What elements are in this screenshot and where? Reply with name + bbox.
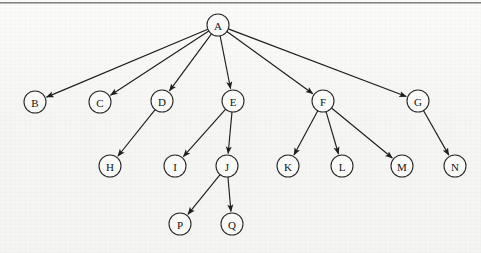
node-label-i: I	[173, 161, 177, 173]
node-label-c: C	[96, 97, 103, 109]
node-label-f: F	[320, 96, 326, 108]
tree-node-k[interactable]: K	[277, 155, 299, 177]
node-label-a: A	[214, 20, 222, 32]
tree-edge-d-h	[118, 110, 155, 157]
tree-node-j[interactable]: J	[216, 155, 238, 177]
node-label-n: N	[451, 161, 459, 173]
tree-edge-a-f	[227, 31, 313, 93]
tree-edge-f-k	[294, 111, 318, 155]
node-label-j: J	[225, 161, 230, 173]
node-label-g: G	[414, 96, 422, 108]
tree-node-e[interactable]: E	[222, 90, 244, 112]
node-label-h: H	[106, 161, 114, 173]
tree-node-b[interactable]: B	[24, 91, 46, 113]
diagram-page: ABCDEFGHIJKLMNPQ	[0, 0, 481, 253]
tree-node-h[interactable]: H	[99, 155, 121, 177]
node-label-m: M	[397, 161, 407, 173]
node-label-d: D	[158, 96, 166, 108]
tree-diagram-canvas: ABCDEFGHIJKLMNPQ	[0, 0, 481, 253]
tree-node-i[interactable]: I	[164, 155, 186, 177]
tree-edge-f-m	[331, 108, 392, 158]
nodes-layer: ABCDEFGHIJKLMNPQ	[24, 14, 466, 235]
tree-edge-j-q	[228, 177, 231, 212]
tree-edge-e-i	[183, 109, 225, 156]
node-label-q: Q	[228, 219, 236, 231]
tree-node-g[interactable]: G	[407, 90, 429, 112]
node-label-p: P	[177, 219, 183, 231]
tree-node-m[interactable]: M	[391, 155, 413, 177]
tree-edge-a-g	[228, 29, 406, 97]
tree-node-n[interactable]: N	[444, 155, 466, 177]
node-label-k: K	[284, 161, 292, 173]
node-label-b: B	[31, 97, 38, 109]
tree-edge-a-c	[110, 31, 208, 95]
tree-edge-e-j	[228, 112, 232, 154]
tree-edge-a-e	[220, 36, 230, 89]
tree-node-f[interactable]: F	[312, 90, 334, 112]
edges-layer	[47, 29, 449, 214]
tree-edge-f-l	[326, 112, 338, 154]
node-label-e: E	[230, 96, 237, 108]
tree-node-c[interactable]: C	[89, 91, 111, 113]
tree-node-a[interactable]: A	[207, 14, 229, 36]
tree-edge-j-p	[188, 175, 220, 215]
tree-edge-g-n	[423, 111, 448, 156]
tree-node-d[interactable]: D	[151, 90, 173, 112]
tree-edge-a-b	[47, 29, 208, 97]
tree-node-q[interactable]: Q	[221, 213, 243, 235]
node-label-l: L	[339, 161, 346, 173]
tree-node-l[interactable]: L	[331, 155, 353, 177]
tree-node-p[interactable]: P	[169, 213, 191, 235]
